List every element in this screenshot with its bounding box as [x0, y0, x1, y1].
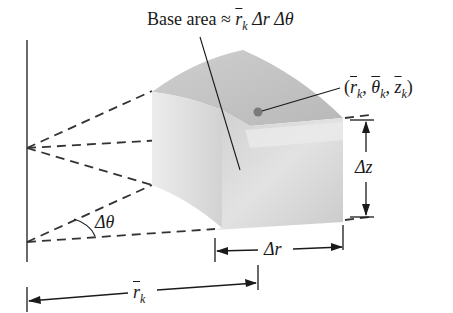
delta-r-label: Δr [264, 240, 282, 258]
base-area-prefix: Base area ≈ [147, 9, 235, 29]
delta-theta-arc [74, 219, 95, 236]
base-area-rest: Δr Δθ [248, 9, 294, 29]
r-bar-symbol: r [133, 282, 140, 302]
r-bar-label: rk [133, 283, 145, 301]
close-paren: ) [407, 77, 413, 97]
r-subscript: k [242, 19, 247, 33]
theta-subscript: k [380, 87, 385, 101]
z-subscript: k [402, 87, 407, 101]
volume-element-wedge [152, 50, 343, 230]
separator: , [362, 77, 371, 97]
cylindrical-wedge-diagram [0, 0, 453, 313]
delta-z-label: Δz [355, 158, 373, 176]
r-subscript: k [357, 87, 362, 101]
base-area-label: Base area ≈ rk Δr Δθ [147, 10, 294, 28]
point-coordinates-label: (rk, θk, zk) [344, 78, 413, 96]
r-subscript: k [140, 292, 145, 306]
separator: , [386, 77, 395, 97]
r-bar-symbol: r [350, 77, 357, 97]
centroid-point [254, 108, 263, 117]
delta-theta-label: Δθ [95, 213, 114, 231]
theta-bar-symbol: θ [371, 77, 380, 97]
z-bar-symbol: z [395, 77, 402, 97]
